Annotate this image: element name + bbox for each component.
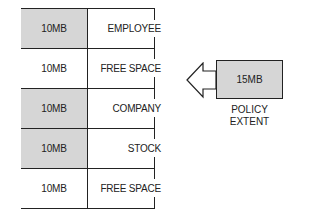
row-border bbox=[21, 8, 155, 9]
caption-line: EXTENT bbox=[216, 116, 283, 128]
policy-extent-box: 15MB bbox=[216, 60, 283, 99]
extent-label: FREE SPACE bbox=[87, 48, 154, 88]
right-edge-segment bbox=[154, 117, 155, 139]
column-divider bbox=[87, 8, 88, 208]
right-edge-segment bbox=[154, 197, 155, 209]
row-border bbox=[21, 48, 155, 49]
right-edge-segment bbox=[154, 157, 155, 179]
policy-extent-caption: POLICY EXTENT bbox=[216, 104, 283, 128]
row-border bbox=[21, 208, 155, 209]
extent-label: EMPLOYEE bbox=[87, 8, 154, 48]
extent-size: 10MB bbox=[21, 168, 87, 208]
right-edge-segment bbox=[154, 8, 155, 20]
row-border bbox=[21, 128, 155, 129]
row-border bbox=[21, 88, 155, 89]
extent-label: FREE SPACE bbox=[87, 168, 154, 208]
caption-line: POLICY bbox=[216, 104, 283, 116]
extent-size: 10MB bbox=[21, 48, 87, 88]
extent-size: 10MB bbox=[21, 8, 87, 48]
extent-size: 10MB bbox=[21, 128, 87, 168]
tablespace-diagram: 10MB EMPLOYEE 10MB FREE SPACE 10MB COMPA… bbox=[21, 8, 154, 208]
row-border bbox=[21, 168, 155, 169]
right-edge-segment bbox=[154, 37, 155, 59]
extent-size: 10MB bbox=[21, 88, 87, 128]
right-edge-segment bbox=[154, 77, 155, 99]
extent-label: STOCK bbox=[87, 128, 154, 168]
extent-label: COMPANY bbox=[87, 88, 154, 128]
arrow-left-icon bbox=[186, 62, 218, 100]
